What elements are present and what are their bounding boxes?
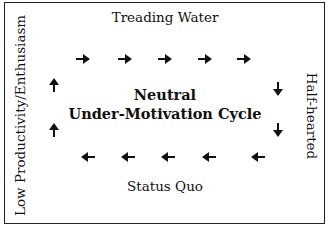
arrow-up-icon [46,122,62,138]
arrow-right-icon [117,51,133,67]
arrow-left-icon [160,149,176,165]
arrow-up-icon [46,77,62,93]
cycle-subtitle: Under-Motivation Cycle [0,105,330,122]
label-status-quo: Status Quo [0,178,330,194]
arrow-right-icon [236,51,252,67]
arrow-left-icon [120,149,136,165]
arrow-down-icon [270,81,286,97]
arrow-left-icon [250,149,266,165]
arrow-right-icon [157,51,173,67]
arrow-right-icon [75,51,91,67]
label-treading-water: Treading Water [0,9,330,25]
arrow-left-icon [80,149,96,165]
arrow-right-icon [197,51,213,67]
arrow-down-icon [270,122,286,138]
arrow-left-icon [201,149,217,165]
